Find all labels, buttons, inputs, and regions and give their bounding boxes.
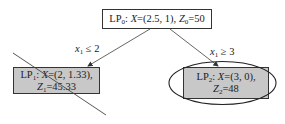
optimal-ellipse [169, 62, 276, 105]
prune-strike-line [13, 53, 106, 115]
annotations-layer [0, 0, 285, 124]
